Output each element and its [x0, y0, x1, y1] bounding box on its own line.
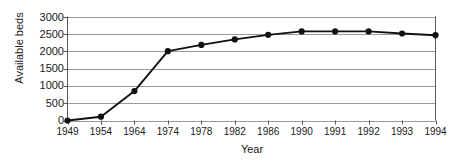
- x-tick-label: 1993: [391, 126, 413, 137]
- x-tick-label: 1978: [190, 126, 212, 137]
- x-tick-label: 1964: [123, 126, 145, 137]
- x-tick-label: 1982: [224, 126, 246, 137]
- x-tick-label: 1992: [357, 126, 379, 137]
- x-tick-label: 1991: [324, 126, 346, 137]
- data-point-markers: [64, 28, 438, 123]
- data-point: [365, 28, 371, 34]
- x-tick-label: 1949: [56, 126, 78, 137]
- x-tick-label: 1986: [257, 126, 279, 137]
- data-point: [299, 28, 305, 34]
- data-point: [131, 88, 137, 94]
- y-tick-marks: [64, 18, 68, 122]
- data-point: [232, 36, 238, 42]
- data-line: [68, 31, 436, 120]
- data-point: [432, 32, 438, 38]
- x-axis-title: Year: [68, 143, 436, 155]
- x-tick-label: 1994: [424, 126, 446, 137]
- data-point: [265, 32, 271, 38]
- line-chart: Available beds 3000 2500 2000 1500 1000 …: [0, 0, 464, 161]
- data-point: [98, 114, 104, 120]
- x-tick-label: 1974: [157, 126, 179, 137]
- data-point: [64, 117, 70, 123]
- data-point: [399, 30, 405, 36]
- data-point: [198, 42, 204, 48]
- x-tick-label: 1954: [90, 126, 112, 137]
- data-point: [332, 28, 338, 34]
- data-point: [165, 48, 171, 54]
- x-tick-label: 1990: [291, 126, 313, 137]
- gridlines: [68, 18, 436, 122]
